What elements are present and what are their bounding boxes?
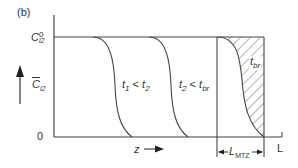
z-arrow-icon [155,146,164,153]
panel-label: (b) [17,7,30,18]
curve-label-tbr: tbr [249,56,261,70]
hatched-region [217,37,264,137]
z-axis-label: z [134,144,140,155]
curve-label-t2: t2 < tbr [179,79,209,93]
bed-length-label: L [277,143,283,154]
mtz-length-label: LMTZ [229,146,250,159]
avg-concentration-label: Ci2 [32,79,45,92]
mtz-right-arrow-icon [257,150,263,155]
mtz-left-arrow-icon [218,150,224,155]
origin-label: 0 [37,131,43,142]
curve-label-t1: t1 < t2 [122,79,150,93]
up-arrow-icon [16,65,24,77]
feed-concentration-label: C0i2 [31,31,44,44]
